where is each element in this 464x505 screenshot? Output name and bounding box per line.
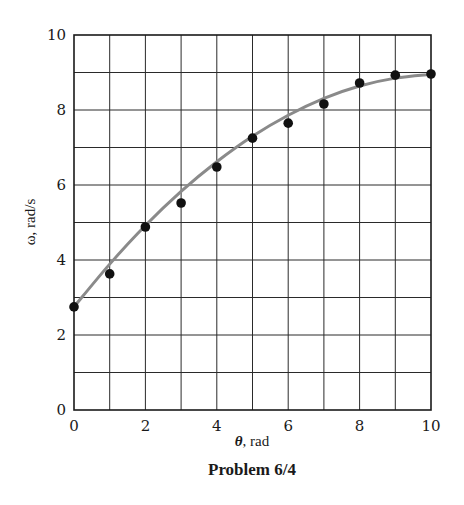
figure-caption: Problem 6/4 (208, 460, 296, 479)
y-axis-ticks: 0246810 (47, 26, 66, 419)
data-point (212, 162, 222, 172)
data-point (355, 78, 365, 88)
y-tick-label: 4 (56, 251, 66, 269)
x-tick-label: 4 (212, 417, 222, 435)
data-point (176, 198, 186, 208)
data-point (426, 69, 436, 79)
y-tick-label: 2 (56, 326, 66, 344)
y-tick-label: 10 (47, 26, 66, 44)
x-tick-label: 10 (421, 417, 440, 435)
y-tick-label: 8 (56, 101, 66, 119)
x-axis-label: θ, rad (235, 433, 270, 449)
data-point (105, 269, 115, 279)
x-tick-label: 8 (355, 417, 365, 435)
data-point (319, 99, 329, 109)
data-point (283, 118, 293, 128)
x-axis-symbol: θ (235, 433, 243, 449)
y-tick-label: 6 (56, 176, 66, 194)
x-tick-label: 2 (141, 417, 151, 435)
chart: 0246810 0246810 θ, rad ω, rad/s Problem … (0, 0, 464, 505)
data-point (391, 70, 401, 80)
data-point (141, 222, 151, 232)
x-tick-label: 6 (283, 417, 293, 435)
x-tick-label: 0 (69, 417, 79, 435)
x-axis-unit: , rad (243, 433, 270, 449)
data-point (248, 133, 258, 143)
grid-lines (74, 35, 431, 410)
data-point (69, 302, 79, 312)
y-axis-label: ω, rad/s (22, 199, 38, 246)
y-tick-label: 0 (56, 401, 66, 419)
